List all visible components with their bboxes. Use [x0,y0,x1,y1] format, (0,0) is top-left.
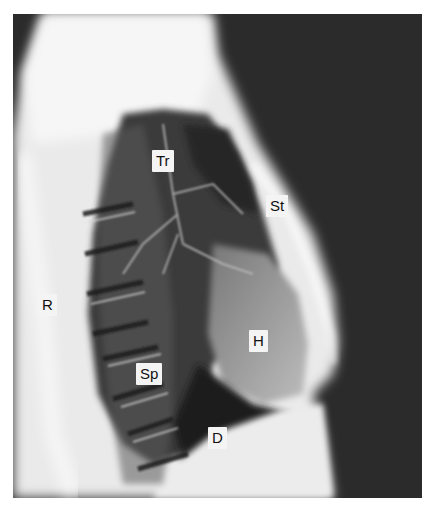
label-heart: H [249,330,268,352]
label-rib: R [38,294,57,316]
label-spine: Sp [136,363,162,385]
label-diaphragm: D [208,427,227,449]
label-sternum: St [266,195,288,217]
label-trachea: Tr [152,150,174,172]
chest-radiograph [13,14,422,498]
radiograph-image [13,14,422,498]
